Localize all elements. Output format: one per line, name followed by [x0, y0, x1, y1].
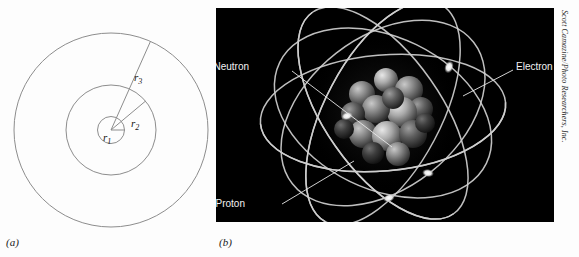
caption-panel-b: (b): [219, 236, 232, 248]
atom-illustration-svg: Neutron Electron Proton: [216, 8, 554, 222]
panel-a-diagram: r1 r2 r3: [0, 0, 216, 257]
radius-label-r1: r1: [103, 131, 111, 146]
radius-line-r2: [111, 101, 146, 130]
figure-root: r1 r2 r3: [0, 0, 579, 257]
radius-label-r3: r3: [134, 71, 142, 86]
callout-label-neutron: Neutron: [216, 61, 249, 72]
caption-panel-a: (a): [6, 236, 19, 248]
concentric-circles-svg: r1 r2 r3: [0, 0, 216, 257]
panel-b-photograph: Neutron Electron Proton: [216, 8, 554, 222]
callout-label-proton: Proton: [216, 198, 245, 209]
radius-label-r2: r2: [131, 117, 139, 132]
photo-credit-text: Scott Camazine/Photo Researchers, Inc.: [560, 10, 569, 143]
nucleon: [362, 142, 384, 164]
nucleon: [382, 87, 404, 109]
nucleon: [415, 113, 435, 133]
photo-credit: Scott Camazine/Photo Researchers, Inc.: [557, 10, 571, 210]
callout-label-electron: Electron: [516, 61, 553, 72]
leader-line-electron: [463, 70, 513, 96]
nucleon: [334, 119, 354, 139]
